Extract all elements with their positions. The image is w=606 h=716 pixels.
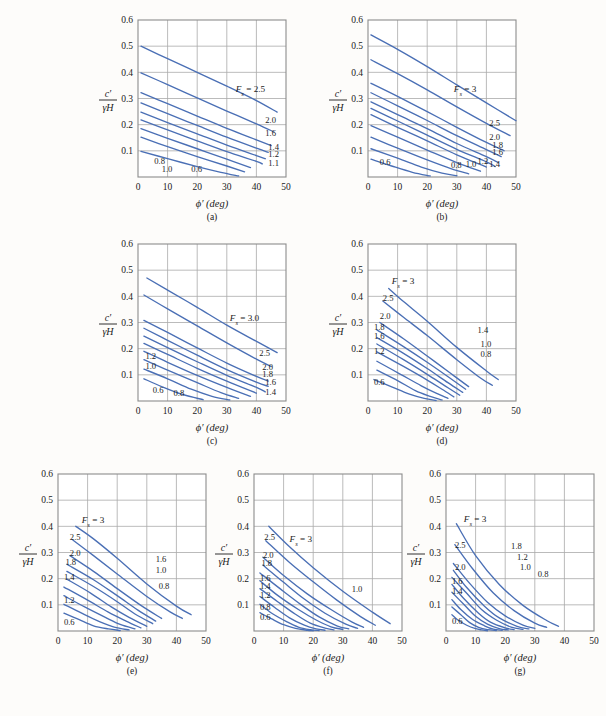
svg-text:c′: c′ xyxy=(413,542,420,553)
x-tick-label: 40 xyxy=(252,182,262,192)
annotation-label-1.6: 1.6 xyxy=(452,576,463,586)
x-tick-label: 30 xyxy=(142,636,152,646)
svg-text:γH: γH xyxy=(22,556,34,567)
annotation-label-1.2: 1.2 xyxy=(517,552,528,562)
annotation-label-0.6: 0.6 xyxy=(380,157,391,167)
annotation-label-0.6: 0.6 xyxy=(153,385,164,395)
x-axis-label: ϕ′ (deg) xyxy=(196,198,229,210)
x-tick-label: 50 xyxy=(589,636,599,646)
chart-svg-f: 010203040500.10.20.30.40.50.6c′γHϕ′ (deg… xyxy=(208,462,408,677)
y-tick-label: 0.4 xyxy=(351,292,363,302)
svg-text:c′: c′ xyxy=(25,542,32,553)
annotation-label-2.5: 2.5 xyxy=(70,532,81,542)
y-axis-label: c′γH xyxy=(329,312,347,337)
x-tick-label: 10 xyxy=(393,182,403,192)
x-tick-label: 30 xyxy=(530,636,540,646)
y-tick-label: 0.6 xyxy=(351,239,363,249)
annotation-label-1.8: 1.8 xyxy=(261,558,272,568)
x-tick-label: 0 xyxy=(136,182,141,192)
x-tick-label: 50 xyxy=(281,182,291,192)
annotation-label-1.6: 1.6 xyxy=(492,147,503,157)
annotation-label-1.0: 1.0 xyxy=(145,361,156,371)
x-tick-label: 30 xyxy=(452,182,462,192)
panel-caption-g: (g) xyxy=(514,666,525,677)
y-tick-label: 0.4 xyxy=(41,522,53,532)
annotation-label-1.2: 1.2 xyxy=(145,351,156,361)
panel-caption-e: (e) xyxy=(127,666,138,677)
annotation-label-1.4: 1.4 xyxy=(478,325,489,335)
x-tick-label: 20 xyxy=(112,636,122,646)
y-tick-label: 0.1 xyxy=(429,600,441,610)
annotation-label-1.2: 1.2 xyxy=(260,590,271,600)
annotation-label-2.5: 2.5 xyxy=(264,532,275,542)
x-tick-label: 10 xyxy=(163,182,173,192)
y-tick-label: 0.1 xyxy=(237,600,249,610)
x-tick-label: 50 xyxy=(511,182,521,192)
annotation-label-1.2: 1.2 xyxy=(478,156,489,166)
annotation-label-0.8: 0.8 xyxy=(174,388,185,398)
y-tick-label: 0.2 xyxy=(121,344,133,354)
y-tick-label: 0.6 xyxy=(121,239,133,249)
panel-caption-c: (c) xyxy=(207,436,218,447)
y-tick-label: 0.3 xyxy=(121,318,133,328)
y-axis-label: c′γH xyxy=(329,88,347,113)
y-tick-label: 0.1 xyxy=(121,370,133,380)
x-tick-label: 30 xyxy=(338,636,348,646)
annotation-label-1.4: 1.4 xyxy=(452,586,463,596)
y-tick-label: 0.2 xyxy=(351,344,363,354)
svg-text:c′: c′ xyxy=(221,542,228,553)
y-tick-label: 0.5 xyxy=(351,41,363,51)
annotation-label-1.0: 1.0 xyxy=(466,159,477,169)
annotation-label-0.6: 0.6 xyxy=(452,616,463,626)
chart-panel-a: 010203040500.10.20.30.40.50.6c′γHϕ′ (deg… xyxy=(92,8,292,223)
annotation-label-1.0: 1.0 xyxy=(162,164,173,174)
y-tick-label: 0.5 xyxy=(121,265,133,275)
y-tick-label: 0.5 xyxy=(429,495,441,505)
annotation-label-1.8: 1.8 xyxy=(65,557,76,567)
annotation-label-1.0: 1.0 xyxy=(480,339,491,349)
x-tick-label: 10 xyxy=(393,406,403,416)
y-tick-label: 0.1 xyxy=(41,600,53,610)
figure-sheet: 010203040500.10.20.30.40.50.6c′γHϕ′ (deg… xyxy=(0,0,606,716)
annotation-label-0.8: 0.8 xyxy=(159,581,170,591)
annotation-label-2.0: 2.0 xyxy=(380,311,391,321)
svg-text:c′: c′ xyxy=(335,88,342,99)
x-tick-label: 0 xyxy=(366,182,371,192)
y-tick-label: 0.6 xyxy=(237,469,249,479)
svg-text:γH: γH xyxy=(332,102,344,113)
svg-text:γH: γH xyxy=(218,556,230,567)
svg-text:c′: c′ xyxy=(105,88,112,99)
svg-text:γH: γH xyxy=(102,102,114,113)
annotation-label-1.6: 1.6 xyxy=(156,554,167,564)
x-tick-label: 40 xyxy=(482,182,492,192)
y-tick-label: 0.2 xyxy=(41,574,53,584)
annotation-label-2.5: 2.5 xyxy=(455,540,466,550)
x-tick-label: 30 xyxy=(222,406,232,416)
y-axis-label: c′γH xyxy=(99,312,117,337)
x-tick-label: 20 xyxy=(422,182,432,192)
x-tick-label: 30 xyxy=(452,406,462,416)
annotation-label-0.6: 0.6 xyxy=(260,612,271,622)
y-tick-label: 0.5 xyxy=(351,265,363,275)
x-axis-label: ϕ′ (deg) xyxy=(312,652,345,664)
x-tick-label: 0 xyxy=(444,636,449,646)
annotation-label-1.4: 1.4 xyxy=(265,387,276,397)
y-tick-label: 0.1 xyxy=(351,370,363,380)
annotation-label-2.0: 2.0 xyxy=(455,562,466,572)
annotation-label-0.8: 0.8 xyxy=(451,160,462,170)
y-tick-label: 0.3 xyxy=(429,548,441,558)
y-tick-label: 0.2 xyxy=(351,120,363,130)
x-tick-label: 40 xyxy=(172,636,182,646)
y-tick-label: 0.6 xyxy=(121,15,133,25)
annotation-label-1.2: 1.2 xyxy=(374,346,385,356)
chart-svg-a: 010203040500.10.20.30.40.50.6c′γHϕ′ (deg… xyxy=(92,8,292,223)
annotation-label-1.6: 1.6 xyxy=(265,377,276,387)
y-tick-label: 0.3 xyxy=(41,548,53,558)
y-axis-label: c′γH xyxy=(19,542,37,567)
y-tick-label: 0.4 xyxy=(121,292,133,302)
y-tick-label: 0.5 xyxy=(41,495,53,505)
chart-svg-b: 010203040500.10.20.30.40.50.6c′γHϕ′ (deg… xyxy=(322,8,522,223)
x-tick-label: 10 xyxy=(279,636,289,646)
y-tick-label: 0.3 xyxy=(237,548,249,558)
x-tick-label: 10 xyxy=(163,406,173,416)
